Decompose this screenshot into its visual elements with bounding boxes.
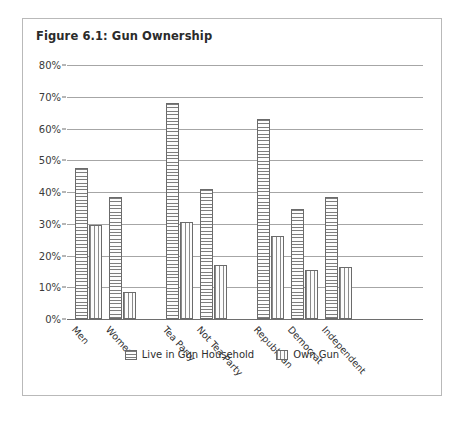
bar-republican-own-gun bbox=[271, 236, 284, 319]
bar-democrat-own-gun bbox=[305, 270, 318, 319]
bar-not-tea-party-own-gun bbox=[214, 265, 227, 319]
bar-men-own-gun bbox=[89, 225, 102, 319]
y-tick-label: 30% bbox=[39, 218, 61, 229]
x-label-men: Men bbox=[70, 324, 92, 346]
gridline-70% bbox=[67, 97, 423, 98]
bar-independent-own-gun bbox=[339, 267, 352, 319]
gridline-60% bbox=[67, 129, 423, 130]
y-tick-mark bbox=[62, 192, 66, 193]
legend-entry-live-in-gun-household: Live in Gun Household bbox=[125, 349, 254, 360]
gridline-40% bbox=[67, 192, 423, 193]
bar-women-own-gun bbox=[123, 292, 136, 319]
y-tick-label: 50% bbox=[39, 155, 61, 166]
y-tick-mark bbox=[62, 287, 66, 288]
y-tick-label: 60% bbox=[39, 123, 61, 134]
y-tick-mark bbox=[62, 223, 66, 224]
legend-swatch-icon bbox=[276, 350, 288, 360]
bar-independent-live-in-gun-household bbox=[325, 197, 338, 319]
y-tick-mark bbox=[62, 255, 66, 256]
gridline-50% bbox=[67, 160, 423, 161]
figure-panel: Figure 6.1: Gun Ownership 0%10%20%30%40%… bbox=[22, 18, 442, 396]
chart-legend: Live in Gun HouseholdOwn Gun bbox=[23, 349, 441, 360]
legend-label: Own Gun bbox=[293, 349, 339, 360]
y-tick-label: 80% bbox=[39, 60, 61, 71]
y-tick-label: 20% bbox=[39, 250, 61, 261]
legend-label: Live in Gun Household bbox=[142, 349, 254, 360]
y-tick-mark bbox=[62, 319, 66, 320]
bar-tea-party-live-in-gun-household bbox=[166, 103, 179, 319]
y-tick-label: 70% bbox=[39, 91, 61, 102]
bar-tea-party-own-gun bbox=[180, 222, 193, 319]
y-tick-mark bbox=[62, 65, 66, 66]
gridline-0% bbox=[67, 319, 423, 320]
y-tick-mark bbox=[62, 96, 66, 97]
bar-democrat-live-in-gun-household bbox=[291, 209, 304, 319]
legend-entry-own-gun: Own Gun bbox=[276, 349, 339, 360]
bar-not-tea-party-live-in-gun-household bbox=[200, 189, 213, 319]
legend-swatch-icon bbox=[125, 350, 137, 360]
bar-women-live-in-gun-household bbox=[109, 197, 122, 319]
y-tick-label: 10% bbox=[39, 282, 61, 293]
chart-plot-area: 0%10%20%30%40%50%60%70%80% MenWomenTea P… bbox=[67, 65, 423, 319]
gridline-80% bbox=[67, 65, 423, 66]
y-tick-mark bbox=[62, 128, 66, 129]
figure-title: Figure 6.1: Gun Ownership bbox=[36, 29, 212, 43]
y-tick-mark bbox=[62, 160, 66, 161]
bar-men-live-in-gun-household bbox=[75, 168, 88, 319]
y-tick-label: 0% bbox=[45, 314, 61, 325]
y-tick-label: 40% bbox=[39, 187, 61, 198]
bar-republican-live-in-gun-household bbox=[257, 119, 270, 319]
